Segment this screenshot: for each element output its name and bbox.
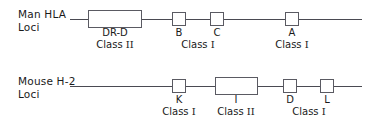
class-word: Class bbox=[217, 106, 243, 117]
row-label-man-hla-line1: Man HLA bbox=[18, 8, 66, 21]
row-label-mouse-h2: Mouse H-2 Loci bbox=[18, 75, 76, 101]
class-word: Class bbox=[292, 106, 318, 117]
class-label-mouse-2: Class II bbox=[217, 106, 254, 117]
locus-box-b bbox=[172, 12, 186, 26]
class-numeral: II bbox=[247, 106, 255, 117]
class-label-mouse-3: Class I bbox=[292, 106, 325, 117]
locus-box-k bbox=[172, 79, 186, 93]
locus-name-d: D bbox=[286, 94, 294, 105]
class-numeral: II bbox=[126, 39, 134, 50]
class-label-man-2: Class I bbox=[181, 39, 214, 50]
diagram-canvas: Man HLA Loci DR-D B C A Class II Class I… bbox=[0, 0, 371, 132]
locus-box-i bbox=[215, 77, 258, 95]
class-word: Class bbox=[181, 39, 207, 50]
locus-box-l bbox=[320, 79, 334, 93]
row-label-mouse-h2-line2: Loci bbox=[18, 88, 76, 101]
class-label-man-1: Class II bbox=[96, 39, 133, 50]
locus-name-dr-d: DR-D bbox=[102, 27, 128, 38]
locus-name-i: I bbox=[235, 94, 238, 105]
class-word: Class bbox=[275, 39, 301, 50]
class-word: Class bbox=[96, 39, 122, 50]
locus-box-c bbox=[210, 12, 224, 26]
class-label-man-3: Class I bbox=[275, 39, 308, 50]
locus-box-a bbox=[285, 12, 299, 26]
locus-name-l: L bbox=[324, 94, 330, 105]
locus-box-dr-d bbox=[88, 10, 142, 28]
class-word: Class bbox=[162, 106, 188, 117]
locus-box-d bbox=[283, 79, 297, 93]
class-numeral: I bbox=[305, 39, 309, 50]
locus-name-a: A bbox=[289, 27, 296, 38]
row-label-mouse-h2-line1: Mouse H-2 bbox=[18, 75, 76, 88]
locus-name-b: B bbox=[176, 27, 183, 38]
class-numeral: I bbox=[322, 106, 326, 117]
row-label-man-hla: Man HLA Loci bbox=[18, 8, 66, 34]
class-numeral: I bbox=[211, 39, 215, 50]
locus-name-k: K bbox=[176, 94, 183, 105]
class-label-mouse-1: Class I bbox=[162, 106, 195, 117]
row-label-man-hla-line2: Loci bbox=[18, 21, 66, 34]
class-numeral: I bbox=[192, 106, 196, 117]
locus-name-c: C bbox=[214, 27, 221, 38]
